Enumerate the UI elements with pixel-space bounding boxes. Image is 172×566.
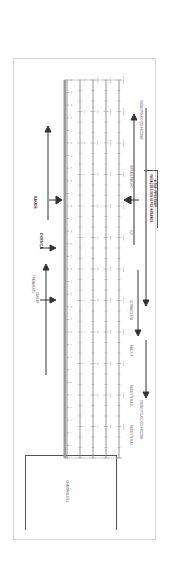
label-luz: LUZ [129,230,132,235]
scale-number: 60 [96,268,99,271]
scale-number: 12.000 [122,76,125,83]
scale-number: 9.000 [122,172,125,178]
scale-number: 700 [109,236,112,240]
scale-number: 24 [70,154,73,157]
scale-number: 50 [96,299,99,302]
scale-number: 30 [96,362,99,365]
scale-number: 1 [70,445,73,446]
scale-number: 4 [83,331,86,332]
scale-number: 14 [70,280,73,283]
label-tratamento: TRATAMENTO [31,275,34,293]
scale-number: 23 [70,167,73,170]
scale-number: 6.000 [122,266,125,272]
scale-number: 4.000 [122,329,125,335]
label-ondas-pouco-conhecidas-top: ONDAS POUCO CONHECIDAS [139,100,142,140]
label-saude: SAÚDE [33,196,36,209]
boxed-note-line1: A SEA: INVESTIGAR [153,180,156,207]
scale-number: 10 [70,331,73,334]
scale-number: 5 [83,300,86,301]
label-doenca: DOENÇA [39,233,42,249]
label-ondas-pouco-conhecidas-bottom: ONDAS POUCO CONHECIDAS [139,400,142,440]
label-infravermelho: INFRAVERMELHO [129,165,132,188]
scale-number: 15 [70,268,73,271]
scale-number: 300 [109,362,112,366]
scale-number: 28 [70,104,73,107]
scale-number: 2 [70,432,73,433]
scale-number: 600 [109,267,112,271]
scale-number: 90 [96,173,99,176]
scale-number: 200 [109,393,112,397]
scale-number: 16 [70,255,73,258]
scale-number: 29 [70,91,73,94]
scale-number: 1.000 [122,424,125,430]
scale-number: 7 [83,237,86,238]
scale-number: 8.000 [122,203,125,209]
scale-number: 8 [70,357,73,358]
scale-number: 25 [70,142,73,145]
scale-number: 22 [70,179,73,182]
scale-number: 8 [83,205,86,206]
scale-number: 20 [96,394,99,397]
rotated-diagram: TESTEMUNHO [0,0,172,566]
scale-number: 900 [109,173,112,177]
scale-number: 100 [109,425,112,429]
label-radiestesia-l: RADIESTESIA L [129,425,132,445]
scale-number: 1.100 [109,109,112,115]
scale-number: 40 [96,331,99,334]
scale-number: 800 [109,204,112,208]
scale-number: 7 [70,369,73,370]
scale-number: 12 [70,305,73,308]
scale-number: 21 [70,192,73,195]
scale-number: 1 [83,426,86,427]
scale-number: 80 [96,205,99,208]
label-ultravioleta: ULTRAVIOLETA [129,300,132,320]
scale-number: 3 [83,363,86,364]
scale-number: 110 [96,110,99,114]
boxed-note-line2: RADIAÇÕES DOS SERES HUMANOS [149,174,152,222]
scale-number: 400 [109,330,112,334]
label-raios-x: RAIOS X [129,345,132,356]
scale-number: 13 [70,293,73,296]
scale-number: 9 [83,174,86,175]
scale-number: 70 [96,236,99,239]
scale-number: 2 [83,394,86,395]
scale-number: 6 [83,268,86,269]
scale-grid [0,0,172,566]
scale-number: 11 [83,110,86,112]
scale-number: 10 [96,425,99,428]
scale-number: 1.000 [109,140,112,146]
scale-number: 30 [70,79,73,82]
scale-number: 17 [70,242,73,245]
scale-number: 11.000 [122,108,125,115]
scale-number: 5 [70,394,73,395]
scale-number: 3.000 [122,361,125,367]
scale-number: 10.000 [122,139,125,146]
scale-number: 19 [70,217,73,220]
scale-number: 120 [96,78,99,82]
scale-number: 11 [70,318,73,320]
scale-number: 27 [70,116,73,119]
scale-number: 18 [70,230,73,233]
scale-number: 12 [83,79,86,82]
scale-number: 6 [70,382,73,383]
scale-number: 500 [109,299,112,303]
scale-number: 5.000 [122,298,125,304]
scale-number: 20 [70,205,73,208]
scale-number: 9 [70,344,73,345]
scale-number: 100 [96,141,99,145]
label-radiestesia-d: RADIESTESIA D [129,385,132,406]
scale-number: 3 [70,420,73,421]
scale-number: 2.000 [122,392,125,398]
scale-number: 4 [70,407,73,408]
scale-number: 1.200 [109,77,112,83]
scale-number: 26 [70,129,73,132]
scale-number: 7.000 [122,235,125,241]
label-cancer: CÂNCER [35,292,38,304]
scale-number: 10 [83,142,86,145]
